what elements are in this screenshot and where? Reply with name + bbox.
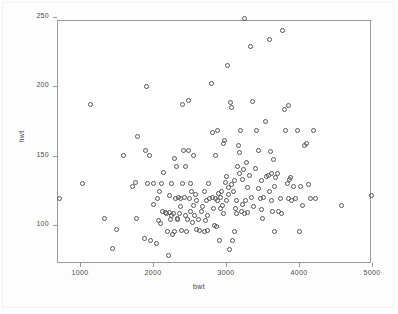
x-axis-tick-label: 5000: [352, 269, 392, 276]
y-axis-tick: [53, 225, 57, 226]
x-axis-label: bwt: [0, 283, 398, 290]
x-axis-tick: [153, 263, 154, 267]
y-axis-tick: [53, 156, 57, 157]
x-axis-tick-label: 2000: [133, 269, 173, 276]
x-axis-tick-label: 1000: [60, 269, 100, 276]
y-axis-tick-label: 200: [19, 81, 49, 88]
y-axis-tick-label: 100: [19, 220, 49, 227]
x-axis-tick-label: 4000: [279, 269, 319, 276]
y-axis-tick: [53, 86, 57, 87]
plot-area-frame: [57, 20, 371, 263]
x-axis-tick: [80, 263, 81, 267]
x-axis-tick: [299, 263, 300, 267]
y-axis-tick-label: 250: [19, 12, 49, 19]
y-axis-label: hwt: [18, 107, 25, 167]
x-axis-tick-label: 3000: [206, 269, 246, 276]
y-axis-tick: [53, 17, 57, 18]
scatter-plot-figure: 10002000300040005000100150200250 bwt hwt: [0, 0, 398, 314]
x-axis-tick: [226, 263, 227, 267]
x-axis-tick: [372, 263, 373, 267]
